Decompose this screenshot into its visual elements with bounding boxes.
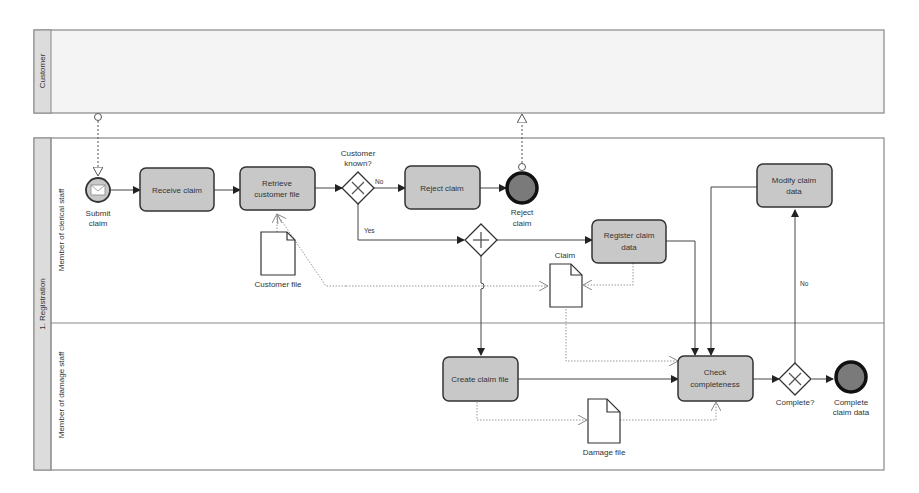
- bpmn-diagram: Customer 1. Registration Member of cleri…: [0, 0, 919, 493]
- task-create-claim-file[interactable]: Create claim file: [443, 357, 518, 401]
- task-modify-claim-data[interactable]: Modify claim data: [757, 164, 832, 207]
- task-label: Check: [704, 368, 728, 377]
- registration-pool-label: 1. Registration: [38, 278, 47, 330]
- end-event-label-2: claim: [513, 219, 532, 228]
- task-label: Reject claim: [420, 184, 464, 193]
- envelope-icon: [91, 185, 105, 195]
- task-label: Receive claim: [152, 186, 202, 195]
- flow-label-no: No: [375, 178, 384, 185]
- flow-label-yes: Yes: [364, 227, 375, 234]
- end-event-label: Reject: [511, 208, 534, 217]
- task-label: Retrieve: [262, 179, 292, 188]
- data-object-customer-file[interactable]: Customer file: [254, 232, 302, 289]
- start-event-label: Submit: [86, 209, 112, 218]
- task-receive-claim[interactable]: Receive claim: [140, 168, 214, 211]
- gateway-label-2: known?: [344, 159, 372, 168]
- task-check-completeness[interactable]: Check completeness: [678, 356, 753, 401]
- task-label-2: completeness: [690, 380, 739, 389]
- task-retrieve-customer-file[interactable]: Retrieve customer file: [240, 167, 315, 210]
- start-event-label-2: claim: [89, 219, 108, 228]
- task-label-2: customer file: [254, 190, 300, 199]
- task-label: Modify claim: [772, 176, 817, 185]
- customer-pool: Customer: [34, 30, 884, 113]
- flow-label-no-2: No: [800, 280, 809, 287]
- end-event-label: Complete: [834, 398, 869, 407]
- task-label: Create claim file: [451, 375, 509, 384]
- task-label-2: data: [621, 243, 637, 252]
- task-reject-claim[interactable]: Reject claim: [405, 166, 480, 209]
- customer-pool-label: Customer: [38, 53, 47, 88]
- task-label: Register claim: [604, 231, 655, 240]
- data-object-label: Claim: [555, 251, 576, 260]
- gateway-label: Customer: [341, 149, 376, 158]
- data-object-label: Damage file: [583, 448, 626, 457]
- task-register-claim-data[interactable]: Register claim data: [592, 220, 666, 263]
- data-object-label: Customer file: [254, 280, 302, 289]
- gateway-label: Complete?: [776, 398, 815, 407]
- task-label-2: data: [786, 187, 802, 196]
- end-event-label-2: claim data: [833, 408, 870, 417]
- lane-label-clerical-staff: Member of clerical staff: [57, 188, 66, 271]
- lane-label-damage-staff: Member of damage staff: [57, 351, 66, 438]
